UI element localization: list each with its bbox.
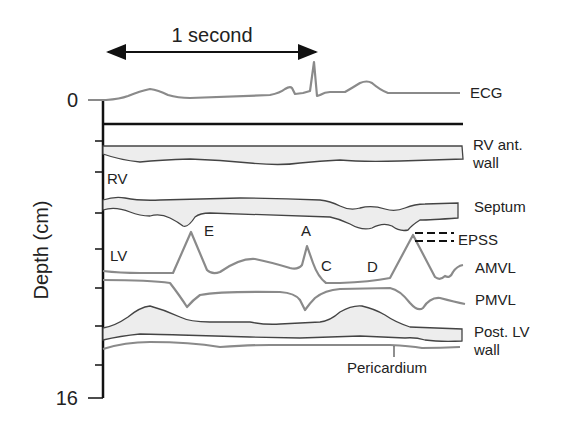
axis-tick-label-bottom: 16: [56, 387, 78, 409]
amvl-label: AMVL: [475, 259, 516, 276]
depth-axis: 0 16 Depth (cm): [30, 89, 103, 409]
rv-ant-wall-label-line2: wall: [472, 154, 499, 171]
rv-label: RV: [107, 170, 128, 187]
rv-ant-wall: [103, 146, 463, 165]
pmvl-trace: [103, 280, 465, 310]
septum-label: Septum: [474, 198, 526, 215]
axis-label: Depth (cm): [30, 201, 52, 300]
wave-e-label: E: [204, 222, 214, 239]
axis-tick-label-top: 0: [67, 89, 78, 111]
rv-ant-wall-label-line1: RV ant.: [473, 136, 523, 153]
post-lv-wall-label-line1: Post. LV: [474, 323, 530, 340]
lv-label: LV: [110, 247, 127, 264]
ecg-trace: [88, 62, 460, 100]
ecg-label: ECG: [470, 84, 503, 101]
septum: [103, 197, 458, 230]
wave-d-label: D: [367, 258, 378, 275]
epss-label: EPSS: [458, 231, 498, 248]
time-scale-label: 1 second: [171, 24, 252, 46]
wave-c-label: C: [321, 257, 332, 274]
amvl-trace: [103, 232, 463, 283]
pmvl-label: PMVL: [475, 291, 516, 308]
time-scale: 1 second: [108, 24, 316, 52]
post-lv-wall-label-line2: wall: [473, 341, 500, 358]
epss-marker: [415, 233, 454, 241]
pericardium-label: Pericardium: [347, 359, 427, 376]
pericardium-line: [103, 342, 460, 349]
wave-a-label: A: [301, 222, 311, 239]
m-mode-diagram: 1 second 0 16 Depth (cm) RV LV E: [0, 0, 575, 431]
post-lv-wall: [103, 306, 462, 341]
